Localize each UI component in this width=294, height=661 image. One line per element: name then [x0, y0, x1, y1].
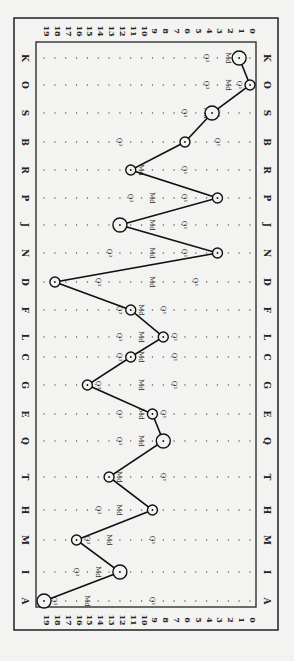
row-label-H: H — [20, 506, 30, 515]
scale-tick-label: 14 — [96, 25, 106, 37]
annotation-q1: Q¹ — [180, 166, 188, 175]
scale-tick-label: 16 — [75, 614, 85, 626]
row-label-P: P — [20, 195, 30, 202]
annotation-q1: Q¹ — [235, 81, 243, 90]
row-label-G: G — [262, 381, 272, 389]
row-label-E: E — [262, 411, 272, 418]
row-label-A: A — [262, 597, 272, 606]
row-label-D: D — [20, 278, 30, 286]
annotation-md: Md — [115, 504, 123, 516]
scale-tick-label: 19 — [42, 25, 52, 37]
row-label-B: B — [262, 138, 272, 146]
row-label-J: J — [262, 222, 272, 227]
inner-frame — [36, 42, 256, 607]
row-label-A: A — [20, 597, 30, 606]
annotation-q1: Q¹ — [159, 410, 167, 419]
annotation-q3: Q³ — [72, 568, 80, 577]
annotation-q3: Q³ — [202, 81, 210, 90]
annotation-md: Md — [137, 435, 145, 447]
row-label-O: O — [20, 81, 30, 89]
annotation-md: Md — [115, 471, 123, 483]
annotation-md: Md — [148, 192, 156, 204]
annotation-q1: Q¹ — [191, 278, 199, 287]
outer-frame — [14, 18, 278, 630]
scale-tick-label: 4 — [205, 28, 215, 34]
row-label-T: T — [262, 474, 272, 481]
scale-tick-label: 17 — [64, 25, 74, 36]
scale-tick-label: 14 — [96, 614, 106, 626]
right-row-labels: KOSBRPJNDFLCGEQTHMIA — [262, 54, 272, 605]
annotation-md: Md — [83, 595, 91, 607]
row-label-C: C — [262, 353, 272, 360]
row-label-R: R — [20, 166, 30, 174]
row-label-L: L — [262, 334, 272, 341]
annotation-q1: Q¹ — [170, 381, 178, 390]
row-label-I: I — [262, 570, 272, 574]
row-label-K: K — [20, 54, 30, 63]
annotation-q1: Q¹ — [180, 249, 188, 258]
scale-tick-label: 17 — [64, 614, 74, 625]
row-label-M: M — [262, 535, 272, 545]
scale-tick-label: 13 — [107, 614, 117, 626]
scale-tick-label: 19 — [42, 614, 52, 626]
scale-tick-label: 16 — [75, 25, 85, 37]
bottom-scale: 191817161514131211109876543210 — [42, 614, 258, 626]
scale-tick-label: 8 — [161, 617, 171, 623]
row-label-B: B — [20, 138, 30, 146]
scale-tick-label: 6 — [183, 617, 193, 623]
scale-tick-label: 10 — [140, 614, 150, 626]
row-label-S: S — [20, 110, 30, 117]
profile-points — [37, 51, 255, 608]
annotation-md: Md — [148, 247, 156, 259]
annotation-q3: Q³ — [115, 333, 123, 342]
row-label-Q: Q — [20, 437, 30, 445]
scale-tick-label: 5 — [194, 28, 204, 34]
annotation-q3: Q³ — [115, 138, 123, 147]
quartile-annotations: Q¹MdQ³Q¹MdQ³Q¹MdQ³Q¹MdQ³Q¹MdQ³Q¹MdQ³Q¹Md… — [50, 52, 242, 607]
annotation-md: Md — [137, 304, 145, 316]
row-label-F: F — [262, 307, 272, 314]
row-label-Q: Q — [262, 437, 272, 445]
scale-tick-label: 7 — [172, 28, 182, 34]
row-label-E: E — [20, 411, 30, 418]
annotation-q1: Q¹ — [170, 353, 178, 362]
annotation-q1: Q¹ — [180, 221, 188, 230]
annotation-q3: Q³ — [94, 506, 102, 515]
scale-tick-label: 5 — [194, 617, 204, 623]
annotation-q1: Q¹ — [159, 473, 167, 482]
annotation-q3: Q³ — [115, 353, 123, 362]
annotation-q1: Q¹ — [159, 306, 167, 315]
annotation-q1: Q¹ — [148, 536, 156, 545]
row-label-T: T — [20, 474, 30, 481]
row-label-N: N — [20, 249, 30, 257]
row-label-D: D — [262, 278, 272, 286]
scale-tick-label: 15 — [85, 614, 95, 625]
annotation-md: Md — [137, 379, 145, 391]
row-label-G: G — [20, 381, 30, 389]
row-label-L: L — [20, 334, 30, 341]
annotation-md: Md — [137, 331, 145, 343]
scale-tick-label: 0 — [248, 617, 258, 623]
annotation-q3: Q³ — [202, 54, 210, 63]
row-label-N: N — [262, 249, 272, 257]
scale-tick-label: 18 — [53, 614, 63, 626]
scale-tick-label: 12 — [118, 614, 128, 625]
scale-tick-label: 11 — [129, 614, 139, 625]
annotation-md: Md — [148, 219, 156, 231]
scale-tick-label: 11 — [129, 25, 139, 36]
scale-tick-label: 15 — [85, 25, 95, 36]
scale-tick-label: 9 — [150, 28, 160, 34]
scale-tick-label: 1 — [237, 617, 247, 623]
scale-tick-label: 18 — [53, 25, 63, 37]
scale-tick-label: 1 — [237, 28, 247, 34]
row-label-O: O — [262, 81, 272, 89]
annotation-q1: Q¹ — [180, 194, 188, 203]
row-label-F: F — [20, 307, 30, 314]
scale-tick-label: 7 — [172, 617, 182, 623]
scale-tick-label: 3 — [215, 617, 225, 623]
annotation-q3: Q³ — [115, 410, 123, 419]
annotation-md: Md — [105, 534, 113, 546]
scale-tick-label: 6 — [183, 28, 193, 34]
row-label-H: H — [262, 506, 272, 515]
row-label-I: I — [20, 570, 30, 574]
